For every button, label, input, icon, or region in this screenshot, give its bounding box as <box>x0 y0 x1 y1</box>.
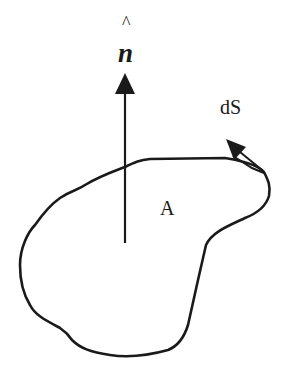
area-label: A <box>160 198 174 218</box>
region-outline <box>20 158 270 356</box>
normal-hat-label: ^ <box>122 14 130 32</box>
surface-element-label: dS <box>220 97 241 117</box>
normal-arrow-head-icon <box>115 73 135 94</box>
diagram-canvas: ^ n dS A <box>0 0 287 377</box>
diagram-svg <box>0 0 287 377</box>
normal-symbol-label: n <box>118 40 133 67</box>
